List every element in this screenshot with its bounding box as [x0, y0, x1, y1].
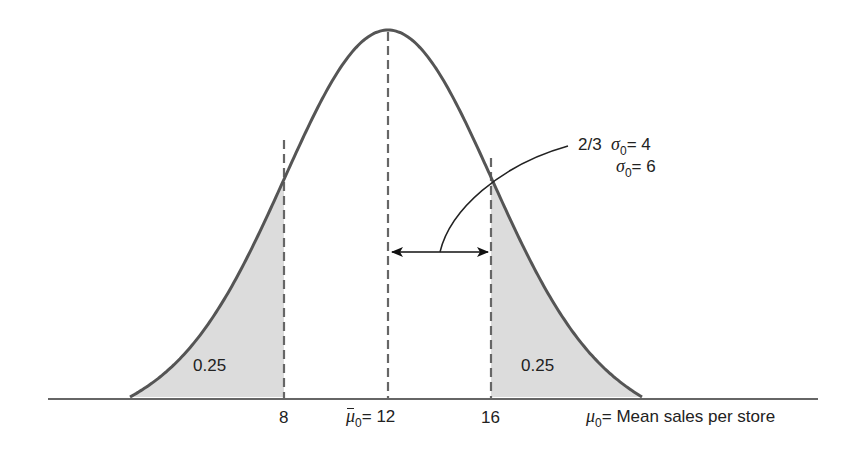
mu-subscript: 0	[595, 416, 602, 430]
tick-label-mean: μ0= 12	[346, 407, 395, 425]
sigma-subscript: 0	[625, 166, 632, 180]
axis-label-text: = Mean sales per store	[602, 407, 775, 426]
mu-symbol: μ	[586, 406, 595, 426]
sigma-value-1: = 4	[627, 135, 651, 154]
mean-value: = 12	[362, 407, 396, 426]
right-tail-area-label: 0.25	[521, 357, 554, 374]
annotation-line-2: σ0= 6	[616, 157, 656, 175]
tick-label-16: 16	[481, 409, 500, 426]
sigma-symbol: σ	[611, 134, 620, 154]
mu-subscript: 0	[355, 416, 362, 430]
left-tail-area-label: 0.25	[193, 357, 226, 374]
x-axis-label: μ0= Mean sales per store	[586, 407, 775, 425]
annotation-line-1: 2/3 σ0= 4	[578, 135, 651, 153]
diagram-graphics	[0, 0, 860, 458]
mu-symbol: μ	[346, 407, 355, 425]
sigma-value-2: = 6	[632, 157, 656, 176]
two-thirds: 2/3	[578, 135, 602, 154]
sigma-symbol: σ	[616, 156, 625, 176]
normal-distribution-diagram: 0.25 0.25 8 μ0= 12 16 μ0= Mean sales per…	[0, 0, 860, 458]
right-tail-shade	[491, 177, 642, 397]
tick-label-8: 8	[279, 409, 288, 426]
